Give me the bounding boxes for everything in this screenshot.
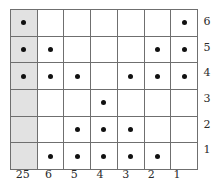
column-label: 3: [113, 165, 139, 185]
matrix-cell[interactable]: [11, 10, 38, 37]
matrix-cell[interactable]: [64, 36, 91, 63]
dot-marker-icon: [101, 100, 106, 105]
dot-marker-icon: [48, 74, 53, 79]
dot-marker-icon: [155, 74, 160, 79]
matrix-cell[interactable]: [117, 116, 144, 143]
matrix-cell[interactable]: [117, 36, 144, 63]
matrix-row: [11, 63, 198, 90]
row-label-axis: 654321: [190, 9, 224, 163]
matrix-row: [11, 116, 198, 143]
dot-marker-icon: [21, 47, 26, 52]
column-label: 6: [36, 165, 62, 185]
column-label: 4: [87, 165, 113, 185]
dot-marker-icon: [101, 154, 106, 159]
row-label: 5: [190, 35, 224, 61]
dot-marker-icon: [155, 154, 160, 159]
matrix-cell[interactable]: [11, 63, 38, 90]
dot-marker-icon: [128, 154, 133, 159]
matrix-cell[interactable]: [11, 36, 38, 63]
column-label: 2: [139, 165, 165, 185]
matrix-row: [11, 10, 198, 37]
dot-marker-icon: [21, 74, 26, 79]
row-label: 6: [190, 9, 224, 35]
dot-marker-icon: [75, 127, 80, 132]
dot-marker-icon: [75, 154, 80, 159]
matrix-cell[interactable]: [64, 63, 91, 90]
matrix-cell[interactable]: [144, 116, 171, 143]
matrix-cell[interactable]: [37, 116, 64, 143]
dot-marker-icon: [155, 47, 160, 52]
matrix-cell[interactable]: [117, 89, 144, 116]
row-label: 4: [190, 60, 224, 86]
column-label: 1: [164, 165, 190, 185]
matrix-row: [11, 36, 198, 63]
matrix-cell[interactable]: [91, 63, 118, 90]
matrix-cell[interactable]: [117, 10, 144, 37]
column-label: 25: [10, 165, 36, 185]
matrix-row: [11, 89, 198, 116]
row-label: 2: [190, 112, 224, 138]
dot-marker-icon: [21, 20, 26, 25]
dot-marker-icon: [75, 74, 80, 79]
matrix-cell[interactable]: [144, 63, 171, 90]
matrix-table-body: [11, 10, 198, 170]
matrix-cell[interactable]: [64, 10, 91, 37]
row-label: 1: [190, 137, 224, 163]
matrix-cell[interactable]: [64, 116, 91, 143]
matrix-cell[interactable]: [37, 63, 64, 90]
incidence-matrix-figure: 654321 25654321: [0, 0, 224, 192]
matrix-cell[interactable]: [11, 89, 38, 116]
matrix-cell[interactable]: [91, 10, 118, 37]
column-label: 5: [61, 165, 87, 185]
matrix-cell[interactable]: [117, 63, 144, 90]
matrix-cell[interactable]: [144, 36, 171, 63]
matrix-cell[interactable]: [91, 36, 118, 63]
matrix-cell[interactable]: [11, 116, 38, 143]
matrix-grid: [10, 9, 190, 163]
row-label: 3: [190, 86, 224, 112]
dot-marker-icon: [128, 127, 133, 132]
matrix-cell[interactable]: [64, 89, 91, 116]
dot-marker-icon: [48, 47, 53, 52]
matrix-cell[interactable]: [37, 89, 64, 116]
column-label-axis: 25654321: [10, 165, 190, 185]
dot-marker-icon: [128, 74, 133, 79]
dot-marker-icon: [48, 154, 53, 159]
matrix-table: [10, 9, 198, 170]
matrix-cell[interactable]: [144, 10, 171, 37]
dot-marker-icon: [101, 127, 106, 132]
matrix-cell[interactable]: [37, 36, 64, 63]
matrix-cell[interactable]: [37, 10, 64, 37]
dot-marker-icon: [182, 47, 187, 52]
matrix-cell[interactable]: [144, 89, 171, 116]
dot-marker-icon: [182, 20, 187, 25]
dot-marker-icon: [182, 74, 187, 79]
matrix-cell[interactable]: [91, 116, 118, 143]
matrix-cell[interactable]: [91, 89, 118, 116]
